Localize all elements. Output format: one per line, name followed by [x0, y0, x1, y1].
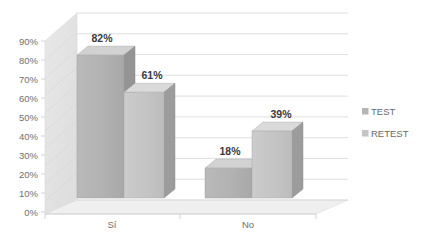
y-tick-label-70: 70% [19, 74, 39, 85]
y-tick-label-0: 0% [24, 207, 38, 218]
legend-label-test: TEST [371, 106, 395, 117]
y-tick-label-10: 10% [19, 188, 39, 199]
x-axis: Sí No [45, 214, 316, 230]
bar-side-face [292, 122, 303, 198]
y-tick-label-30: 30% [19, 150, 39, 161]
legend-item-test[interactable]: TEST [362, 106, 395, 117]
y-axis: 90% 80% 70% 60% 50% 40% 30% 20% 10% 0% [19, 36, 45, 218]
bar-chart-3d: 90% 80% 70% 60% 50% 40% 30% 20% 10% 0% [0, 0, 426, 235]
legend: TEST RETEST [362, 106, 409, 139]
plot-floor [45, 200, 348, 214]
data-label-si-retest: 61% [141, 69, 163, 81]
chart-container: 90% 80% 70% 60% 50% 40% 30% 20% 10% 0% [0, 0, 426, 235]
y-tick-label-80: 80% [19, 55, 39, 66]
data-label-no-retest: 39% [270, 108, 292, 120]
plot-left-wall [45, 13, 77, 214]
bar-front-face [77, 55, 124, 198]
legend-swatch-test [362, 108, 369, 115]
bar-front-face [205, 168, 252, 198]
legend-item-retest[interactable]: RETEST [362, 128, 409, 139]
y-tick-label-20: 20% [19, 169, 39, 180]
legend-swatch-retest [362, 130, 369, 137]
x-category-label-no: No [242, 219, 254, 230]
bar-front-face [124, 92, 164, 198]
data-label-no-test: 18% [219, 145, 241, 157]
bar-front-face [252, 131, 292, 198]
y-tick-label-40: 40% [19, 131, 39, 142]
bar-side-face [164, 83, 175, 198]
bar-no-retest[interactable] [252, 122, 303, 198]
bar-si-retest[interactable] [124, 83, 175, 198]
legend-label-retest: RETEST [371, 128, 409, 139]
y-tick-label-60: 60% [19, 93, 39, 104]
data-label-si-test: 82% [91, 32, 113, 44]
y-tick-label-50: 50% [19, 112, 39, 123]
x-category-label-si: Sí [108, 219, 117, 230]
y-tick-label-90: 90% [19, 36, 39, 47]
